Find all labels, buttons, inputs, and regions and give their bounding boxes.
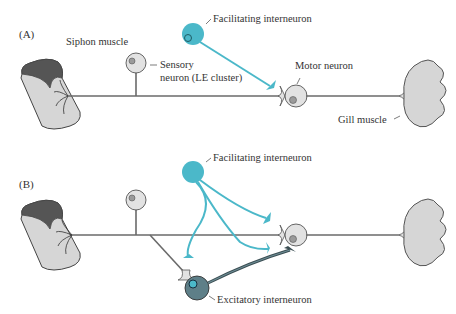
- panel-a-label: (A): [19, 28, 34, 40]
- gill-muscle-b: [404, 199, 446, 266]
- gill-muscle-a: [404, 60, 446, 127]
- panel-b-label: (B): [19, 178, 34, 190]
- facilitating-interneuron-label-b: Facilitating interneuron: [213, 152, 312, 164]
- siphon-muscle-label: Siphon muscle: [66, 36, 128, 48]
- siphon-muscle-a: [21, 59, 80, 129]
- sensory-neuron-label-line2: neuron (LE cluster): [160, 72, 242, 84]
- motor-neuron-b: [285, 224, 307, 246]
- sensory-neuron-label-line1: Sensory: [160, 59, 194, 71]
- excitatory-interneuron-label: Excitatory interneuron: [217, 294, 312, 306]
- siphon-muscle-b: [21, 200, 80, 270]
- motor-neuron-label: Motor neuron: [295, 60, 353, 72]
- gill-muscle-label: Gill muscle: [338, 114, 387, 126]
- panel-b: [21, 158, 446, 300]
- sensory-neuron-a: [126, 53, 146, 73]
- sensory-neuron-b: [126, 190, 146, 210]
- motor-neuron-a: [285, 85, 307, 107]
- excitatory-interneuron: [185, 276, 209, 300]
- facilitating-interneuron-label-a: Facilitating interneuron: [213, 13, 312, 25]
